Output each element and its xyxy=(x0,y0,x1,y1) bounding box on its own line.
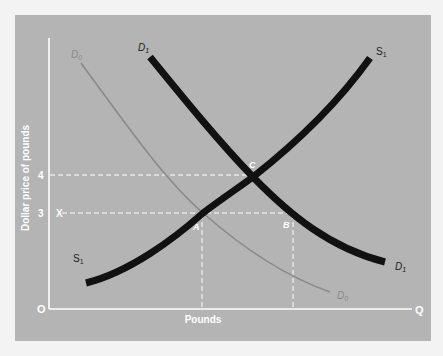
point-b-label: B xyxy=(283,220,290,230)
s1-top-label: S1 xyxy=(376,46,387,58)
supply-demand-chart: O Q 4 3 X Pounds Dollar price of pounds … xyxy=(0,0,443,356)
svg-text:D1: D1 xyxy=(138,42,149,54)
point-a-label: A xyxy=(192,222,200,232)
svg-text:D1: D1 xyxy=(395,261,406,273)
curve-s1 xyxy=(86,58,370,283)
origin-label: O xyxy=(37,303,46,315)
s1-bottom-label: S1 xyxy=(73,253,84,265)
d0-top-label: D0 xyxy=(71,49,82,61)
q-label: Q xyxy=(415,304,424,316)
svg-text:S1: S1 xyxy=(73,253,84,265)
tick-3: 3 xyxy=(38,208,44,219)
point-c-label: C xyxy=(249,160,256,170)
svg-text:D0: D0 xyxy=(337,290,348,302)
d1-bottom-label: D1 xyxy=(395,261,406,273)
y-axis-title: Dollar price of pounds xyxy=(20,125,31,232)
d1-top-label: D1 xyxy=(138,42,149,54)
x-axis-title: Pounds xyxy=(185,314,222,325)
svg-text:D0: D0 xyxy=(71,49,82,61)
svg-text:S1: S1 xyxy=(376,46,387,58)
x-marker-label: X xyxy=(56,208,63,219)
d0-bottom-label: D0 xyxy=(337,290,348,302)
tick-4: 4 xyxy=(38,170,44,181)
